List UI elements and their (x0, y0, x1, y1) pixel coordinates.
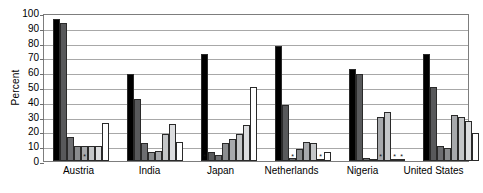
bar-united-states-s1 (423, 54, 430, 161)
bar-united-states-s2 (430, 87, 437, 161)
bar-nigeria-s8: * (398, 159, 405, 161)
bar-japan-s3 (215, 155, 222, 161)
bar-japan-s4 (222, 143, 229, 161)
bar-india-s4 (148, 152, 155, 161)
category-label-japan: Japan (185, 165, 256, 177)
bar-india-s2 (134, 99, 141, 161)
y-tick-90: 90 (28, 24, 39, 34)
bar-nigeria-s3 (363, 158, 370, 161)
y-tick-80: 80 (28, 39, 39, 49)
bar-group-japan: * (192, 15, 266, 161)
bar-japan-s5 (229, 139, 236, 161)
bar-japan-s8 (250, 87, 257, 161)
category-label-austria: Austria (43, 165, 114, 177)
suppressed-value-asterisk: * (319, 154, 322, 159)
bar-group-netherlands: ** (266, 15, 340, 161)
bar-india-s1 (127, 74, 134, 161)
bar-netherlands-s2 (282, 105, 289, 161)
bar-netherlands-s7: * (317, 159, 324, 161)
y-tick-60: 60 (28, 68, 39, 78)
bar-austria-s2 (60, 23, 67, 161)
bar-netherlands-s1 (275, 46, 282, 161)
bar-united-states-s4 (444, 148, 451, 161)
y-tick-100: 100 (22, 9, 39, 19)
bar-group-india (118, 15, 192, 161)
bar-japan-s6 (236, 134, 243, 161)
bar-united-states-s3 (437, 146, 444, 161)
bar-austria-s1 (53, 19, 60, 161)
y-tick-50: 50 (28, 83, 39, 93)
bar-netherlands-s5 (303, 142, 310, 161)
y-tick-70: 70 (28, 53, 39, 63)
bar-netherlands-s3: * (289, 158, 296, 161)
clipped-top-text (0, 0, 476, 9)
bar-austria-s3 (67, 137, 74, 161)
bar-austria-s5: * (81, 146, 88, 161)
bar-austria-s7 (95, 146, 102, 161)
bar-japan-s7 (243, 125, 250, 161)
x-axis-category-labels: AustriaIndiaJapanNetherlandsNigeriaUnite… (43, 165, 469, 177)
bar-united-states-s6 (458, 117, 465, 161)
bar-group-nigeria: *** (340, 15, 414, 161)
suppressed-value-asterisk: * (400, 154, 403, 159)
bar-netherlands-s4 (296, 149, 303, 161)
bar-austria-s8 (102, 123, 109, 161)
bar-nigeria-s1 (349, 69, 356, 161)
axis-tick-0 (40, 163, 44, 164)
category-label-india: India (114, 165, 185, 177)
plot-area: ******* (43, 14, 469, 162)
bar-netherlands-s6 (310, 143, 317, 161)
y-tick-10: 10 (28, 142, 39, 152)
category-label-united-states: United States (398, 165, 469, 177)
bar-india-s7 (169, 124, 176, 161)
suppressed-value-asterisk: * (83, 154, 86, 159)
bar-groups: ******* (44, 15, 468, 161)
bar-india-s6 (162, 134, 169, 161)
suppressed-value-asterisk: * (203, 154, 206, 159)
bar-india-s3 (141, 143, 148, 161)
bar-united-states-s8 (472, 133, 479, 161)
bar-nigeria-s2 (356, 74, 363, 161)
y-tick-40: 40 (28, 98, 39, 108)
bar-austria-s6 (88, 146, 95, 161)
bar-japan-s2 (208, 152, 215, 161)
bar-nigeria-s6 (384, 112, 391, 161)
suppressed-value-asterisk: * (379, 154, 382, 159)
bar-japan-s1: * (201, 54, 208, 161)
bar-austria-s4 (74, 146, 81, 161)
suppressed-value-asterisk: * (291, 154, 294, 159)
suppressed-value-asterisk: * (393, 154, 396, 159)
bar-india-s8 (176, 142, 183, 161)
y-tick-20: 20 (28, 127, 39, 137)
bar-united-states-s7 (465, 121, 472, 161)
y-tick-0: 0 (33, 157, 39, 167)
y-tick-30: 30 (28, 113, 39, 123)
bar-netherlands-s8 (324, 152, 331, 161)
y-axis-tick-labels: 1009080706050403020100 (12, 14, 39, 162)
bar-united-states-s5 (451, 115, 458, 161)
bar-nigeria-s7: * (391, 159, 398, 161)
bar-nigeria-s4 (370, 159, 377, 161)
category-label-netherlands: Netherlands (256, 165, 327, 177)
bar-nigeria-s5: * (377, 117, 384, 161)
bar-india-s5 (155, 151, 162, 161)
category-label-nigeria: Nigeria (327, 165, 398, 177)
bar-group-united-states (414, 15, 483, 161)
bar-group-austria: * (44, 15, 118, 161)
